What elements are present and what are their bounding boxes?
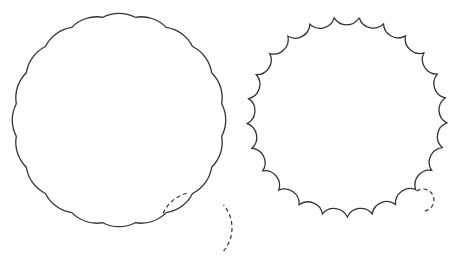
left-scalloped-circle [12,13,232,251]
diagram-canvas [0,0,471,256]
right-scalloped-circle [247,18,447,217]
right-generating-circle [415,189,434,211]
left-outline [12,13,225,226]
right-outline [247,18,447,217]
left-generating-circle [162,193,232,251]
